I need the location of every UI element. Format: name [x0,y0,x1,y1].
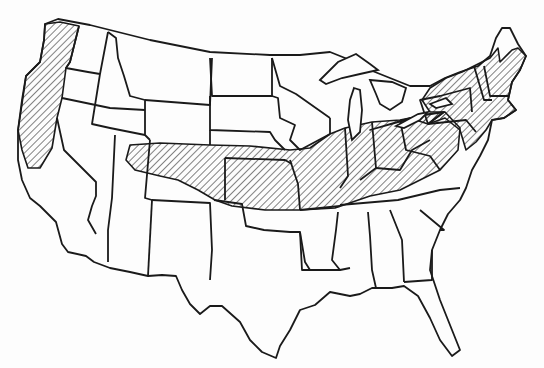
lake-michigan [348,88,362,140]
hatched-central-band [126,112,460,210]
hatched-pacific-coast [18,22,79,168]
us-map [0,0,544,368]
lake-huron [370,80,406,110]
